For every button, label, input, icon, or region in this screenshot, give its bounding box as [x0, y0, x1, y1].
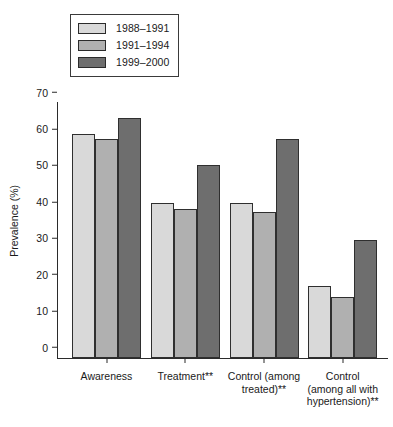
y-axis-tick-mark	[52, 274, 57, 275]
bar	[151, 203, 174, 358]
y-axis-tick: 0	[42, 342, 57, 353]
legend-swatch-1991-1994	[78, 40, 106, 51]
bar	[354, 240, 377, 358]
y-axis-tick-mark	[52, 165, 57, 166]
legend-label-1988-1991: 1988–1991	[116, 23, 169, 34]
y-axis-tick: 70	[36, 87, 57, 98]
y-axis-tick: 40	[36, 197, 57, 208]
bar	[253, 212, 276, 358]
y-axis-tick-label: 0	[42, 342, 48, 353]
y-axis-tick-label: 20	[36, 269, 48, 280]
bar	[118, 118, 141, 358]
x-axis-tick-mark	[342, 358, 343, 363]
y-axis-tick: 50	[36, 160, 57, 171]
x-axis-tick-mark	[185, 358, 186, 363]
legend-item: 1988–1991	[78, 20, 169, 37]
y-axis-tick: 20	[36, 269, 57, 280]
legend-label-1991-1994: 1991–1994	[116, 40, 169, 51]
bar	[276, 139, 299, 358]
bar	[95, 139, 118, 358]
y-axis-tick-label: 60	[36, 124, 48, 135]
y-axis-tick-mark	[52, 128, 57, 129]
y-axis-tick-mark	[52, 311, 57, 312]
x-axis-tick-mark	[264, 358, 265, 363]
bar	[230, 203, 253, 358]
y-axis-tick-mark	[52, 238, 57, 239]
bar	[174, 209, 197, 358]
bar	[197, 165, 220, 358]
legend-item: 1991–1994	[78, 37, 169, 54]
legend-swatch-1988-1991	[78, 23, 106, 34]
bar	[72, 134, 95, 358]
legend-item: 1999–2000	[78, 54, 169, 71]
y-axis-tick-mark	[52, 347, 57, 348]
y-axis-tick-mark	[52, 201, 57, 202]
y-axis-tick: 30	[36, 233, 57, 244]
bar-chart: 1988–1991 1991–1994 1999–2000 Prevalence…	[0, 0, 393, 427]
y-axis-tick: 60	[36, 124, 57, 135]
y-axis-tick: 10	[36, 306, 57, 317]
y-axis-tick-label: 30	[36, 233, 48, 244]
y-axis-title: Prevalence (%)	[9, 185, 20, 257]
x-axis-tick-mark	[106, 358, 107, 363]
y-axis-tick-label: 40	[36, 197, 48, 208]
x-axis-label: Treatment**	[157, 370, 213, 383]
y-axis-tick-label: 10	[36, 306, 48, 317]
bar	[331, 297, 354, 358]
y-axis-tick-mark	[52, 92, 57, 93]
y-axis-tick-label: 70	[36, 87, 48, 98]
plot-area: 010203040506070	[57, 103, 387, 358]
x-axis-label: Awareness	[81, 370, 133, 383]
legend-swatch-1999-2000	[78, 57, 106, 68]
y-axis-line	[57, 102, 58, 359]
x-axis-label: Control (among all with hypertension)**	[307, 370, 379, 408]
x-axis-label: Control (among treated)**	[228, 370, 300, 395]
bar	[308, 286, 331, 358]
y-axis-tick-label: 50	[36, 160, 48, 171]
legend-label-1999-2000: 1999–2000	[116, 57, 169, 68]
chart-legend: 1988–1991 1991–1994 1999–2000	[70, 14, 179, 77]
